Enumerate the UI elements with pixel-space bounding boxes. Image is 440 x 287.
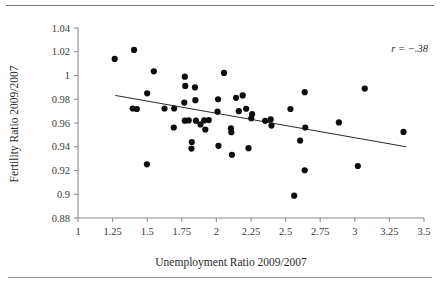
data-point: 2.885, 0.9605 (336, 119, 342, 125)
y-tick-label: 0.94 (52, 141, 71, 152)
data-point: 1.265, 1.014 (112, 56, 118, 62)
data-point: 1.405, 1.0215 (131, 47, 137, 53)
data-point: 2.215, 0.972 (243, 106, 249, 112)
data-point: 1.92, 0.9545 (202, 126, 208, 132)
data-point: 2.605, 0.9452 (297, 137, 303, 143)
correlation-annotation: r = −.38 (391, 43, 428, 54)
data-point: 1.775, 0.9912 (182, 83, 188, 89)
x-tick-label: 1.25 (103, 226, 121, 237)
y-tick-label: 1.04 (52, 23, 71, 34)
x-axis-title: Unemployment Ratio 2009/2007 (155, 256, 307, 269)
x-tick-label: 1 (75, 226, 80, 237)
y-tick-label: 0.92 (52, 165, 70, 176)
data-point: 2.642, 0.9562 (302, 124, 308, 130)
x-tick-label: 1.75 (173, 226, 191, 237)
regression-trendline (115, 95, 406, 146)
data-point: 1.695, 0.9722 (171, 105, 177, 111)
x-tick-label: 2.25 (242, 226, 260, 237)
data-point: 3.352, 0.9525 (400, 129, 406, 135)
data-point: 1.768, 0.9772 (181, 99, 187, 105)
x-tick-label: 2.75 (311, 226, 329, 237)
data-point: 1.772, 0.999 (182, 74, 188, 80)
data-points-layer: 1.265, 1.0141.405, 1.02151.395, 0.97221.… (112, 47, 407, 199)
x-tick-label: 1.5 (141, 226, 154, 237)
data-point: 1.845, 0.99 (192, 84, 198, 90)
data-point: 1.5, 0.985 (144, 90, 150, 96)
y-tick-label: 0.98 (52, 94, 70, 105)
y-tick-label: 1.02 (52, 46, 70, 57)
data-point: 2.252, 0.964 (248, 115, 254, 121)
tick-marks-layer (74, 28, 424, 222)
y-axis-title: Fertility Ratio 2009/2007 (8, 65, 21, 182)
y-tick-label: 0.9 (57, 189, 70, 200)
x-tick-label: 2 (214, 226, 219, 237)
data-point: 1.945, 0.9625 (206, 117, 212, 123)
data-point: 3.022, 0.9238 (355, 163, 361, 169)
data-point: 2.142, 0.9812 (233, 95, 239, 101)
data-point: 2.638, 0.9202 (302, 167, 308, 173)
data-point: 2.108, 0.9522 (228, 129, 234, 135)
data-point: 1.548, 1.0035 (151, 68, 157, 74)
data-point: 1.82, 0.9385 (188, 145, 194, 151)
x-tick-label: 3.25 (380, 226, 398, 237)
data-point: 1.425, 0.9718 (134, 106, 140, 112)
data-point: 2.352, 0.9618 (262, 118, 268, 124)
data-point: 2.232, 0.9388 (245, 145, 251, 151)
data-point: 1.498, 0.9252 (144, 161, 150, 167)
data-point: 1.822, 0.944 (189, 139, 195, 145)
y-tick-label: 0.88 (52, 213, 70, 224)
data-point: 2.392, 0.963 (268, 116, 274, 122)
x-tick-label: 3 (352, 226, 357, 237)
data-point: 2.112, 0.9332 (229, 152, 235, 158)
y-tick-label: 0.96 (52, 118, 70, 129)
data-point: 2.012, 0.98 (215, 96, 221, 102)
data-point: 2.398, 0.9578 (268, 123, 274, 129)
axes-layer (78, 28, 424, 218)
bottom-horizontal-rule (8, 277, 432, 278)
y-tick-label: 1 (65, 70, 70, 81)
data-point: 1.625, 0.9722 (161, 105, 167, 111)
trendline-layer (115, 95, 406, 146)
figure-container: 11.251.51.7522.252.52.7533.253.5 1.041.0… (0, 0, 440, 287)
data-point: 2.638, 0.986 (302, 89, 308, 95)
y-tick-labels: 1.041.0210.980.960.940.920.90.88 (52, 23, 71, 224)
data-point: 2.535, 0.9718 (287, 106, 293, 112)
data-point: 2.562, 0.8988 (291, 193, 297, 199)
data-point: 3.072, 0.989 (362, 85, 368, 91)
x-tick-label: 2.5 (279, 226, 292, 237)
data-point: 2.015, 0.9408 (215, 143, 221, 149)
data-point: 2.055, 1.0022 (221, 70, 227, 76)
data-point: 1.848, 0.9792 (192, 97, 198, 103)
data-point: 2.19, 0.9832 (240, 92, 246, 98)
scatter-plot: 11.251.51.7522.252.52.7533.253.5 1.041.0… (0, 0, 440, 287)
x-tick-label: 3.5 (417, 226, 430, 237)
x-tick-labels: 11.251.51.7522.252.52.7533.253.5 (75, 226, 430, 237)
data-point: 2.162, 0.97 (236, 108, 242, 114)
data-point: 1.692, 0.9562 (171, 124, 177, 130)
data-point: 1.8, 0.9622 (186, 117, 192, 123)
data-point: 2.008, 0.9695 (214, 109, 220, 115)
